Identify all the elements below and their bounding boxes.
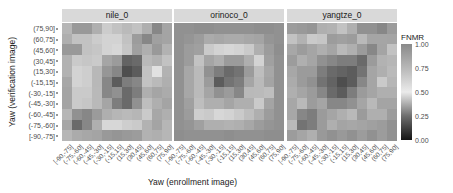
heatmap-grid-orinoco	[174, 23, 284, 141]
y-tick-label: (60,75]	[33, 36, 58, 43]
heatmap-cell	[337, 44, 347, 55]
heatmap-cell	[162, 98, 172, 109]
heatmap-cell	[72, 98, 82, 109]
heatmap-cell	[102, 98, 112, 109]
heatmap-cell	[357, 55, 367, 66]
heatmap-cell	[142, 87, 152, 98]
heatmap-cell	[224, 23, 234, 34]
heatmap-cell	[264, 130, 274, 141]
heatmap-cell	[244, 23, 254, 34]
y-tick-label: (-45,-30]	[29, 100, 58, 107]
heatmap-grid-yangtze	[287, 23, 397, 141]
heatmap-cell	[317, 109, 327, 120]
heatmap-cell	[244, 120, 254, 131]
heatmap-cell	[264, 23, 274, 34]
heatmap-cell	[102, 55, 112, 66]
heatmap-cell	[234, 120, 244, 131]
heatmap-cell	[244, 130, 254, 141]
heatmap-cell	[264, 77, 274, 88]
heatmap-cell	[347, 98, 357, 109]
heatmap-cell	[254, 66, 264, 77]
heatmap-cell	[214, 109, 224, 120]
heatmap-cell	[184, 98, 194, 109]
heatmap-cell	[184, 44, 194, 55]
heatmap-cell	[184, 55, 194, 66]
heatmap-cell	[387, 109, 397, 120]
heatmap-cell	[224, 98, 234, 109]
heatmap-cell	[254, 44, 264, 55]
heatmap-cell	[297, 87, 307, 98]
heatmap-cell	[244, 87, 254, 98]
heatmap-cell	[102, 120, 112, 131]
heatmap-cell	[357, 77, 367, 88]
heatmap-cell	[152, 98, 162, 109]
heatmap-cell	[357, 44, 367, 55]
heatmap-cell	[92, 130, 102, 141]
heatmap-cell	[234, 109, 244, 120]
heatmap-cell	[92, 55, 102, 66]
heatmap-cell	[347, 130, 357, 141]
y-tick-label: (-75,-60]	[29, 121, 58, 128]
heatmap-cell	[307, 87, 317, 98]
heatmap-cell	[132, 23, 142, 34]
heatmap-cell	[307, 23, 317, 34]
heatmap-cell	[357, 23, 367, 34]
heatmap-cell	[194, 77, 204, 88]
heatmap-cell	[162, 34, 172, 45]
heatmap-cell	[327, 120, 337, 131]
heatmap-cell	[214, 98, 224, 109]
heatmap-cell	[287, 34, 297, 45]
heatmap-cell	[92, 87, 102, 98]
heatmap-cell	[367, 66, 377, 77]
heatmap-cell	[184, 120, 194, 131]
heatmap-cell	[72, 77, 82, 88]
heatmap-cell	[122, 34, 132, 45]
heatmap-cell	[254, 55, 264, 66]
heatmap-cell	[112, 120, 122, 131]
heatmap-cell	[244, 109, 254, 120]
heatmap-cell	[184, 23, 194, 34]
heatmap-cell	[184, 66, 194, 77]
heatmap-cell	[62, 87, 72, 98]
heatmap-cell	[174, 34, 184, 45]
heatmap-cell	[254, 130, 264, 141]
heatmap-cell	[152, 23, 162, 34]
heatmap-cell	[162, 109, 172, 120]
heatmap-cell	[287, 130, 297, 141]
heatmap-cell	[224, 34, 234, 45]
heatmap-cell	[297, 130, 307, 141]
heatmap-cell	[337, 66, 347, 77]
heatmap-cell	[264, 87, 274, 98]
heatmap-cell	[112, 34, 122, 45]
heatmap-cell	[72, 120, 82, 131]
heatmap-cell	[132, 109, 142, 120]
heatmap-cell	[62, 120, 72, 131]
heatmap-cell	[214, 34, 224, 45]
heatmap-cell	[194, 34, 204, 45]
heatmap-cell	[92, 44, 102, 55]
heatmap-cell	[327, 66, 337, 77]
heatmap-cell	[62, 66, 72, 77]
heatmap-cell	[82, 44, 92, 55]
heatmap-cell	[122, 77, 132, 88]
heatmap-cell	[142, 66, 152, 77]
heatmap-cell	[62, 130, 72, 141]
heatmap-cell	[264, 55, 274, 66]
heatmap-cell	[102, 130, 112, 141]
heatmap-cell	[132, 130, 142, 141]
facet-strip-yangtze: yangtze_0	[287, 9, 397, 22]
heatmap-cell	[162, 66, 172, 77]
heatmap-cell	[102, 87, 112, 98]
heatmap-cell	[234, 66, 244, 77]
heatmap-cell	[297, 120, 307, 131]
heatmap-cell	[162, 44, 172, 55]
heatmap-cell	[274, 87, 284, 98]
heatmap-cell	[347, 87, 357, 98]
heatmap-cell	[162, 87, 172, 98]
heatmap-cell	[152, 130, 162, 141]
heatmap-cell	[337, 98, 347, 109]
heatmap-cell	[194, 130, 204, 141]
heatmap-cell	[82, 34, 92, 45]
heatmap-cell	[152, 109, 162, 120]
heatmap-cell	[347, 109, 357, 120]
